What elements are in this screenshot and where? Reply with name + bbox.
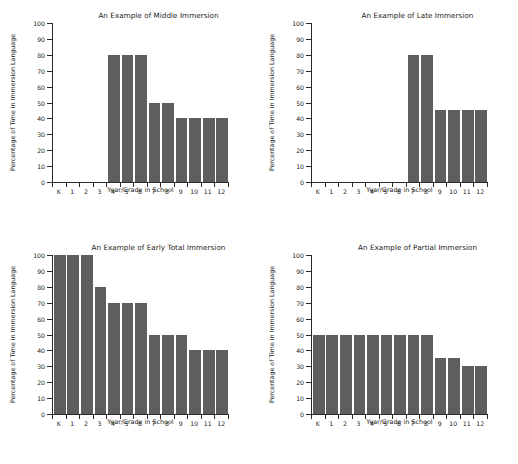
y-axis-tick-label: 90 [296, 35, 304, 42]
bar [108, 55, 120, 182]
y-axis-tick-label: 30 [296, 131, 304, 138]
bar [216, 350, 228, 414]
bar [462, 366, 474, 414]
bar [54, 255, 66, 414]
y-axis-tick [47, 150, 52, 151]
y-axis-tick-label: 50 [37, 331, 45, 338]
y-axis-tick-label: 40 [37, 347, 45, 354]
y-axis-label: Percentage of Time in Immersion Language [267, 23, 277, 182]
chart-title: An Example of Partial Immersion [323, 243, 512, 252]
bar [203, 350, 215, 414]
y-axis-tick [306, 118, 311, 119]
y-axis-tick [47, 398, 52, 399]
y-axis-tick-label: 20 [37, 147, 45, 154]
bar [435, 110, 447, 182]
y-axis-tick-label: 60 [296, 315, 304, 322]
chart-panel-partial-immersion: An Example of Partial Immersion Percenta… [259, 232, 518, 464]
y-axis-tick-label: 40 [296, 347, 304, 354]
bar [122, 303, 134, 414]
chart-panel-late-immersion: An Example of Late Immersion Percentage … [259, 0, 518, 232]
bar [408, 335, 420, 415]
x-axis-label: Year/Grade in School [311, 418, 488, 426]
bar [421, 55, 433, 182]
y-axis-tick [306, 166, 311, 167]
y-axis-tick [47, 87, 52, 88]
y-axis-tick-label: 70 [37, 299, 45, 306]
bar [313, 335, 325, 415]
plot-area: 0102030405060708090100K123456789101112 [311, 255, 487, 414]
y-axis-tick-label: 40 [37, 115, 45, 122]
y-axis-tick [47, 303, 52, 304]
y-axis-tick [47, 134, 52, 135]
y-axis-tick [306, 382, 311, 383]
y-axis-tick [306, 335, 311, 336]
chart-title: An Example of Early Total Immersion [64, 243, 253, 252]
y-axis-tick-label: 20 [37, 379, 45, 386]
plot-area: 0102030405060708090100K123456789101112 [52, 23, 228, 182]
y-axis-tick-label: 40 [296, 115, 304, 122]
y-axis-tick [47, 255, 52, 256]
bar [475, 366, 487, 414]
bar [189, 350, 201, 414]
bar [408, 55, 420, 182]
y-axis-tick-label: 70 [296, 299, 304, 306]
chart-title: An Example of Late Immersion [323, 11, 512, 20]
y-axis-tick [47, 103, 52, 104]
y-axis-tick-label: 0 [300, 411, 304, 418]
bar [135, 303, 147, 414]
bar [216, 118, 228, 182]
y-axis-tick-label: 80 [37, 51, 45, 58]
bar [354, 335, 366, 415]
y-axis-tick-label: 100 [292, 252, 304, 259]
y-axis-tick [47, 166, 52, 167]
chart-panel-middle-immersion: An Example of Middle Immersion Percentag… [0, 0, 259, 232]
bar-series [312, 255, 488, 414]
y-axis-tick [47, 71, 52, 72]
bar [448, 358, 460, 414]
y-axis-tick [306, 287, 311, 288]
bar [81, 255, 93, 414]
y-axis-tick-label: 90 [296, 267, 304, 274]
x-axis-label: Year/Grade in School [52, 186, 229, 194]
y-axis-tick-label: 60 [37, 315, 45, 322]
y-axis-tick-label: 0 [41, 411, 45, 418]
y-axis-tick-label: 70 [37, 67, 45, 74]
y-axis-tick-label: 10 [296, 163, 304, 170]
y-axis-tick-label: 20 [296, 379, 304, 386]
y-axis-tick-label: 20 [296, 147, 304, 154]
y-axis-tick [306, 366, 311, 367]
y-axis-tick-label: 10 [296, 395, 304, 402]
y-axis-tick [47, 366, 52, 367]
y-axis-tick-label: 30 [37, 363, 45, 370]
y-axis-tick-label: 50 [296, 99, 304, 106]
y-axis-tick [47, 335, 52, 336]
bar [462, 110, 474, 182]
bar-series [312, 23, 488, 182]
bar [95, 287, 107, 414]
y-axis-tick [47, 271, 52, 272]
y-axis-tick [306, 87, 311, 88]
bar [149, 335, 161, 415]
bar [475, 110, 487, 182]
y-axis-tick [306, 71, 311, 72]
chart-panel-early-total-immersion: An Example of Early Total Immersion Perc… [0, 232, 259, 464]
y-axis-tick-label: 100 [292, 20, 304, 27]
y-axis-tick-label: 90 [37, 267, 45, 274]
y-axis-tick-label: 30 [37, 131, 45, 138]
y-axis-tick [47, 287, 52, 288]
bar [381, 335, 393, 415]
y-axis-tick [47, 350, 52, 351]
y-axis-tick-label: 70 [296, 67, 304, 74]
bar [149, 103, 161, 183]
y-axis-tick [47, 39, 52, 40]
y-axis-tick-label: 10 [37, 395, 45, 402]
y-axis-tick [306, 39, 311, 40]
bar [162, 335, 174, 415]
y-axis-tick-label: 50 [37, 99, 45, 106]
y-axis-tick-label: 10 [37, 163, 45, 170]
y-axis-tick [306, 255, 311, 256]
bar [122, 55, 134, 182]
y-axis-tick [306, 271, 311, 272]
bar [435, 358, 447, 414]
y-axis-tick-label: 80 [296, 51, 304, 58]
